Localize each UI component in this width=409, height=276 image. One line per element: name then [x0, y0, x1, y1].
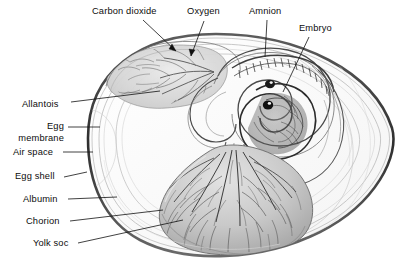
label-egg-membrane-line1: Egg: [0, 121, 64, 133]
label-chorion: Chorion: [26, 216, 60, 227]
label-egg-membrane: Egg membrane: [0, 121, 64, 144]
label-carbon-dioxide: Carbon dioxide: [92, 6, 157, 17]
label-egg-membrane-line2: membrane: [0, 133, 64, 145]
label-oxygen: Oxygen: [187, 6, 220, 17]
label-albumin: Albumin: [23, 194, 58, 205]
label-egg-shell: Egg shell: [15, 171, 55, 182]
leader-egg-shell: [64, 172, 87, 177]
label-amnion: Amnion: [249, 6, 281, 17]
label-yolk-soc: Yolk soc: [33, 238, 68, 249]
label-air-space: Air space: [13, 147, 53, 158]
label-allantois: Allantois: [22, 99, 59, 110]
label-embryo: Embryo: [299, 23, 332, 34]
